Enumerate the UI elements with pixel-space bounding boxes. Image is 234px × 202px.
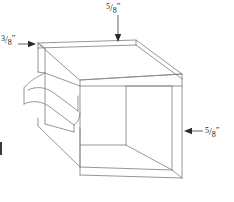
left-side-edges <box>38 48 45 126</box>
dimension-top-unit: ” <box>117 2 121 11</box>
dimension-label-top: 5/8” <box>106 3 120 15</box>
dimension-right-unit: ” <box>216 126 220 135</box>
leader-top <box>115 15 121 42</box>
interior-cavity <box>80 86 172 170</box>
bullnose-molding <box>24 73 80 132</box>
top-panel-underside <box>80 74 182 86</box>
dimension-label-left: 3/8” <box>1 35 15 47</box>
top-face-thickness-edge <box>38 40 182 79</box>
edge-tick-mark <box>0 142 2 155</box>
dimension-label-right: 5/8” <box>205 127 219 139</box>
leader-left <box>18 41 36 47</box>
leader-right <box>184 128 203 134</box>
front-frame <box>80 86 182 178</box>
box-outline <box>24 40 182 178</box>
technical-drawing-canvas: 5/8” 3/8” 5/8” <box>0 0 234 202</box>
isometric-box-drawing <box>0 0 234 202</box>
dimension-left-unit: ” <box>12 34 16 43</box>
